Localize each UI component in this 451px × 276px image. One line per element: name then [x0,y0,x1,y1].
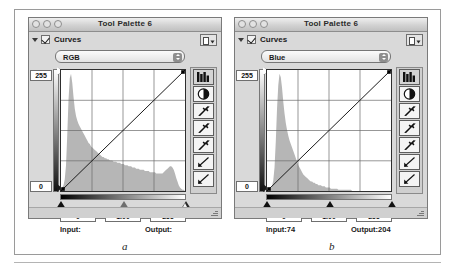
curves-header-b: Curves [235,32,427,48]
channel-select-b[interactable]: Blue [261,50,391,63]
channel-select-a[interactable]: RGB [55,50,185,63]
axis-top-label-b: 255 [236,70,258,81]
output-ramp-b [259,69,265,192]
contrast-icon[interactable] [399,86,420,102]
eyedropper-gray-icon[interactable] [193,120,214,136]
curve-draw-icon[interactable] [193,154,214,170]
channel-select-value: Blue [269,53,285,62]
curve-point-icon[interactable] [399,171,420,187]
eyedropper-black-icon[interactable] [399,103,420,119]
eyedropper-white-icon[interactable] [399,137,420,153]
window-title-a: Tool Palette 6 [29,19,221,28]
window-footer-a [29,207,221,218]
chevron-updown-icon[interactable] [379,53,388,62]
input-readout-b: Input:74 [266,225,295,234]
window-title-b: Tool Palette 6 [235,19,427,28]
tool-strip-a[interactable] [190,67,217,194]
title-bar-b[interactable]: Tool Palette 6 [235,18,427,32]
caption-a: a [122,240,128,252]
output-readout-b: Output:204 [351,225,391,234]
input-ramp-b [266,194,392,200]
figure-root: Tool Palette 6 Curves RGB 255 0 0 1.00 2… [0,0,451,276]
window-footer-b [235,207,427,218]
resize-grip-icon[interactable] [210,208,219,217]
tool-strip-b[interactable] [396,67,423,194]
tool-palette-window-b[interactable]: Tool Palette 6 Curves Blue 255 0 0 1.00 … [234,17,428,219]
axis-top-label-a: 255 [30,70,52,81]
curves-checkbox[interactable] [41,35,50,44]
curve-draw-icon[interactable] [399,154,420,170]
channel-select-value: RGB [63,53,80,62]
figure-bottom-rule [14,262,441,263]
tool-palette-window-a[interactable]: Tool Palette 6 Curves RGB 255 0 0 1.00 2… [28,17,222,219]
curves-label: Curves [54,35,81,44]
curve-graph-a[interactable] [60,69,186,192]
curves-label: Curves [260,35,287,44]
page-menu-icon[interactable] [406,34,423,46]
output-ramp-a [53,69,59,192]
curve-graph-svg-a [61,70,185,191]
output-readout-a: Output: [145,225,172,234]
input-ramp-a [60,194,186,200]
axis-bottom-label-b: 0 [236,181,258,192]
axis-bottom-label-a: 0 [30,181,52,192]
curves-header-a: Curves [29,32,221,48]
disclosure-triangle-icon[interactable] [32,38,38,42]
curve-graph-b[interactable] [266,69,392,192]
curve-graph-svg-b [267,70,391,191]
curve-point-icon[interactable] [193,171,214,187]
page-menu-icon[interactable] [200,34,217,46]
curves-checkbox[interactable] [247,35,256,44]
eyedropper-gray-icon[interactable] [399,120,420,136]
eyedropper-black-icon[interactable] [193,103,214,119]
disclosure-triangle-icon[interactable] [238,38,244,42]
histogram-icon[interactable] [399,69,420,85]
contrast-icon[interactable] [193,86,214,102]
title-bar-a[interactable]: Tool Palette 6 [29,18,221,32]
chevron-updown-icon[interactable] [173,53,182,62]
eyedropper-white-icon[interactable] [193,137,214,153]
caption-b: b [329,240,335,252]
histogram-icon[interactable] [193,69,214,85]
input-readout-a: Input: [60,225,81,234]
resize-grip-icon[interactable] [416,208,425,217]
